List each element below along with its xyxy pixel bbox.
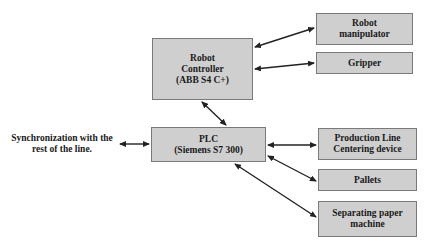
arrow-controller-gripper: [255, 63, 314, 69]
plc-box: PLC (Siemens S7 300): [151, 127, 266, 162]
pallets-label: Pallets: [354, 175, 381, 186]
robot-controller-box: Robot Controller (ABB S4 C+): [152, 38, 253, 100]
robot-manipulator-box: Robot manipulator: [316, 13, 413, 45]
synchronization-label: Synchronization with the rest of the lin…: [4, 133, 120, 155]
arrow-plc-pallets: [268, 156, 316, 181]
production-line-label: Production Line Centering device: [333, 133, 401, 155]
robot-manipulator-label: Robot manipulator: [339, 18, 390, 40]
system-architecture-diagram: Robot Controller (ABB S4 C+) PLC (Siemen…: [0, 0, 429, 244]
plc-label: PLC (Siemens S7 300): [174, 134, 243, 156]
arrow-plc-separating-paper: [235, 164, 316, 217]
gripper-label: Gripper: [348, 58, 381, 69]
production-line-box: Production Line Centering device: [318, 128, 417, 160]
pallets-box: Pallets: [318, 169, 417, 191]
gripper-box: Gripper: [316, 52, 413, 74]
robot-controller-label: Robot Controller (ABB S4 C+): [176, 53, 229, 86]
arrow-controller-manipulator: [255, 28, 314, 47]
separating-paper-box: Separating paper machine: [318, 201, 417, 237]
arrow-controller-plc: [202, 102, 226, 125]
separating-paper-label: Separating paper machine: [332, 208, 402, 230]
